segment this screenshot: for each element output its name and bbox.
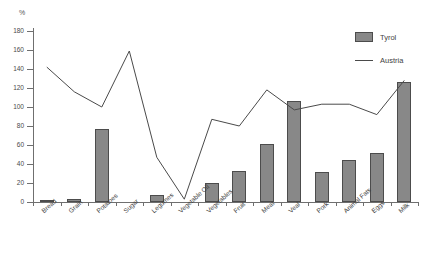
y-axis-unit-label: %	[19, 9, 25, 16]
y-axis-tick-label: 160	[2, 46, 24, 53]
bar	[342, 160, 356, 202]
y-axis-tick-label: 120	[2, 84, 24, 91]
x-axis-tick	[143, 202, 144, 206]
x-axis-tick	[253, 202, 254, 206]
y-axis-tick-label: 20	[2, 179, 24, 186]
y-axis-tick-label: 140	[2, 65, 24, 72]
x-axis-tick	[61, 202, 62, 206]
x-axis-tick	[363, 202, 364, 206]
x-axis-tick	[226, 202, 227, 206]
y-axis-tick-label: 180	[2, 27, 24, 34]
x-axis-tick	[336, 202, 337, 206]
x-axis-tick	[171, 202, 172, 206]
legend-bar-swatch-icon	[355, 32, 373, 42]
x-axis-tick	[88, 202, 89, 206]
bar	[232, 171, 246, 202]
bar	[315, 172, 329, 202]
x-axis-tick	[391, 202, 392, 206]
bar	[260, 144, 274, 202]
chart-container: % 020406080100120140160180 BreadGrainPot…	[0, 0, 434, 254]
legend-item-tyrol: Tyrol	[355, 30, 430, 44]
bar	[370, 153, 384, 202]
bar	[95, 129, 109, 202]
y-axis-tick-label: 80	[2, 122, 24, 129]
x-axis-tick	[33, 202, 34, 206]
x-axis-tick	[281, 202, 282, 206]
legend-item-austria: Austria	[355, 53, 430, 67]
x-axis-tick	[198, 202, 199, 206]
x-axis-tick	[418, 202, 419, 206]
legend-label-austria: Austria	[380, 56, 403, 65]
y-axis-tick-label: 100	[2, 103, 24, 110]
bar	[287, 101, 301, 202]
y-axis-tick-label: 0	[2, 198, 24, 205]
chart-legend: Tyrol Austria	[355, 30, 430, 76]
bar	[397, 82, 411, 202]
x-axis-tick	[308, 202, 309, 206]
y-axis-tick-label: 40	[2, 160, 24, 167]
x-axis-label: Milk	[397, 201, 410, 214]
y-axis-tick-label: 60	[2, 141, 24, 148]
x-axis-tick	[116, 202, 117, 206]
legend-line-swatch-icon	[355, 60, 373, 61]
legend-label-tyrol: Tyrol	[380, 33, 396, 42]
